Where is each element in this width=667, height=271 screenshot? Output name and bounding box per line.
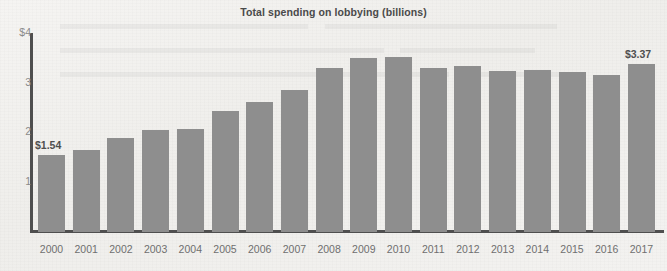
x-axis-tick-2017: 2017 — [621, 243, 661, 255]
bar-2001[interactable] — [73, 150, 100, 232]
bar-2013[interactable] — [489, 71, 516, 232]
bar-2011[interactable] — [420, 68, 447, 232]
bar-2004[interactable] — [177, 129, 204, 232]
plot-area: $4321 $1.54$3.37 20002001200220032004200… — [0, 0, 667, 271]
bar-2015[interactable] — [559, 72, 586, 232]
bar-2012[interactable] — [454, 66, 481, 232]
bar-2016[interactable] — [593, 75, 620, 232]
bars-layer: $1.54$3.37 — [0, 0, 667, 271]
bar-2009[interactable] — [350, 58, 377, 232]
bar-2008[interactable] — [316, 68, 343, 232]
bar-value-label-2000: $1.54 — [35, 139, 61, 151]
bar-2017[interactable] — [628, 64, 655, 232]
bar-2005[interactable] — [212, 111, 239, 232]
bar-2007[interactable] — [281, 90, 308, 232]
bar-2000[interactable] — [38, 155, 65, 232]
bar-2003[interactable] — [142, 130, 169, 232]
bar-value-label-2017: $3.37 — [625, 48, 651, 60]
bar-2006[interactable] — [246, 102, 273, 232]
bar-2002[interactable] — [107, 138, 134, 232]
bar-2014[interactable] — [524, 70, 551, 232]
bar-2010[interactable] — [385, 57, 412, 232]
